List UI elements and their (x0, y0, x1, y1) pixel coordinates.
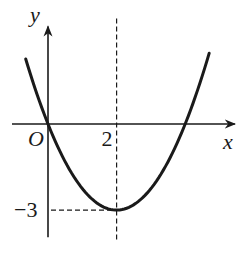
parabola-chart: y x O 2 −3 (0, 0, 238, 254)
x-tick-label-2: 2 (102, 126, 113, 151)
parabola-curve (26, 53, 210, 210)
y-tick-label-neg3: −3 (14, 197, 37, 222)
x-axis-label: x (222, 129, 233, 154)
y-axis-label: y (28, 2, 40, 27)
origin-label: O (28, 126, 44, 151)
